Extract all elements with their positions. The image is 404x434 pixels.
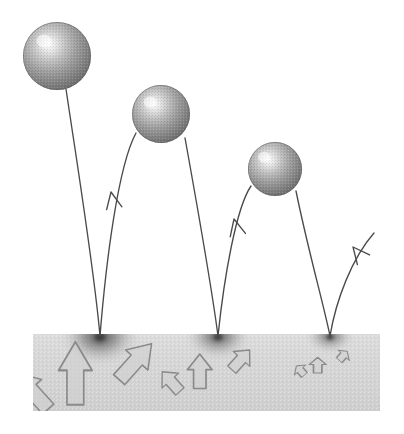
descent-path-1 [66, 89, 100, 336]
ascent-arrowhead-1 [103, 190, 122, 210]
ascent-path-1 [100, 133, 136, 336]
bouncing-ball-diagram [0, 0, 404, 434]
ball-bounce-3 [248, 142, 302, 196]
trajectory-paths [66, 89, 374, 336]
ascent-path-2 [218, 186, 251, 336]
sphere-highlight [144, 96, 157, 107]
sphere-highlight [258, 152, 270, 162]
ascent-arrowhead-3 [347, 242, 370, 265]
figure-container [0, 0, 404, 434]
sphere-highlight [37, 35, 52, 48]
ball-spheres [23, 22, 302, 196]
ball-bounce-1 [23, 22, 91, 90]
impact-core [321, 330, 339, 344]
descent-path-2 [185, 138, 218, 336]
descent-path-3 [296, 191, 330, 336]
ascent-path-3 [330, 233, 374, 336]
ball-bounce-2 [132, 85, 190, 143]
